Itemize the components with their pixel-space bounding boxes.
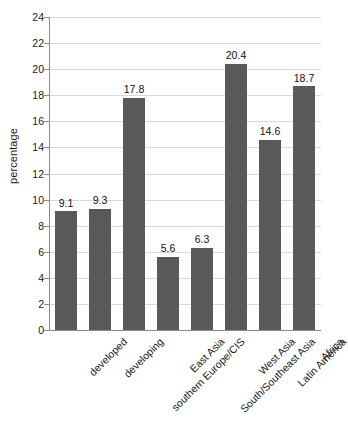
- y-axis-title: percentage: [0, 0, 26, 340]
- bar-group[interactable]: 17.8: [123, 16, 145, 330]
- y-axis-title-text: percentage: [7, 99, 19, 213]
- bar-value-label: 9.3: [93, 195, 108, 206]
- bar-group[interactable]: 14.6: [259, 16, 281, 330]
- bar-value-label: 9.1: [59, 198, 74, 209]
- bar[interactable]: [191, 248, 213, 330]
- bar[interactable]: [157, 257, 179, 330]
- bar-group[interactable]: 18.7: [293, 16, 315, 330]
- y-axis-tick-label: 16: [32, 116, 44, 127]
- bar-group[interactable]: 5.6: [157, 16, 179, 330]
- y-axis-tick-label: 18: [32, 90, 44, 101]
- plot-area: 9.19.317.85.66.320.414.618.7: [49, 17, 321, 331]
- x-axis-tick-label: developed: [87, 336, 129, 378]
- bar-group[interactable]: 9.3: [89, 16, 111, 330]
- y-axis-tick-label: 24: [32, 12, 44, 23]
- y-axis-tick-label: 10: [32, 194, 44, 205]
- bar[interactable]: [293, 86, 315, 330]
- y-axis-tick-label: 22: [32, 38, 44, 49]
- bar-value-label: 20.4: [226, 50, 246, 61]
- x-axis-tick-label: southern Europe/CIS: [170, 336, 247, 413]
- x-axis-tick-label: South/Southeast Asia: [238, 336, 316, 414]
- x-axis-tick-label: West Asia: [257, 336, 297, 376]
- bar[interactable]: [259, 140, 281, 330]
- x-axis-tick-label: developing: [122, 336, 165, 379]
- x-axis-tick-label: Latin America: [296, 336, 348, 388]
- bar-group[interactable]: 9.1: [55, 16, 77, 330]
- bar-value-label: 17.8: [124, 84, 144, 95]
- bar[interactable]: [89, 209, 111, 330]
- bar-value-label: 5.6: [161, 243, 176, 254]
- bar-value-label: 18.7: [294, 73, 314, 84]
- bar-value-label: 6.3: [195, 234, 210, 245]
- bar-group[interactable]: 20.4: [225, 16, 247, 330]
- y-axis-tick-label: 20: [32, 64, 44, 75]
- bar[interactable]: [55, 211, 77, 330]
- bar[interactable]: [123, 98, 145, 330]
- x-axis-tick-label: East Asia: [188, 336, 226, 374]
- bars-container: 9.19.317.85.66.320.414.618.7: [49, 17, 321, 331]
- x-axis-tick-label: Africa: [319, 336, 345, 362]
- bar-value-label: 14.6: [260, 126, 280, 137]
- bar[interactable]: [225, 64, 247, 330]
- y-axis-tick-label: 12: [32, 168, 44, 179]
- y-axis-tick-label: 14: [32, 142, 44, 153]
- bar-group[interactable]: 6.3: [191, 16, 213, 330]
- y-axis-tick-labels: 024681012141618202224: [24, 0, 44, 441]
